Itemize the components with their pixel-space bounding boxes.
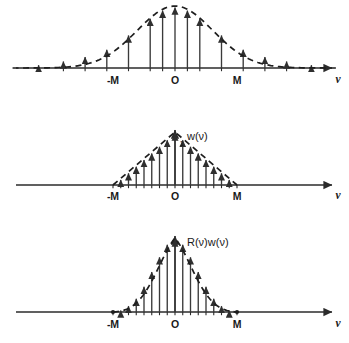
three-panel-stem-plot: -MOMν-MOMνw(ν)1-MOMνR(ν)w(ν)	[0, 0, 349, 343]
tick-label-origin: O	[171, 74, 179, 86]
tick-label-negative-m: -M	[107, 318, 119, 330]
tick-label-negative-m: -M	[107, 190, 119, 202]
tick-label-positive-m: M	[233, 318, 242, 330]
curve-endpoint-dot	[111, 310, 115, 314]
envelope-curve	[13, 6, 336, 68]
tick-label-origin: O	[171, 318, 179, 330]
x-axis-variable-label: ν	[335, 317, 341, 329]
panel-middle: -MOMνw(ν)1	[16, 130, 341, 202]
figure-container: -MOMν-MOMνw(ν)1-MOMνR(ν)w(ν)	[0, 0, 349, 343]
curve-endpoint-dot	[235, 310, 239, 314]
peak-unit-label: 1	[180, 139, 185, 148]
tick-label-negative-m: -M	[107, 74, 119, 86]
x-axis-variable-label: ν	[335, 73, 341, 85]
x-axis-variable-label: ν	[335, 189, 341, 201]
series-label-middle: w(ν)	[186, 130, 208, 142]
tick-label-origin: O	[171, 190, 179, 202]
panel-top: -MOMν	[13, 6, 342, 86]
series-label-bottom: R(ν)w(ν)	[187, 236, 229, 248]
panel-bottom: -MOMνR(ν)w(ν)	[16, 236, 341, 330]
tick-label-positive-m: M	[233, 74, 242, 86]
tick-label-positive-m: M	[233, 190, 242, 202]
